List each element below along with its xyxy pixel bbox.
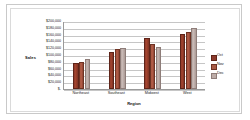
legend-item-nov[interactable]: Nov	[211, 62, 245, 71]
bar-southeast-oct[interactable]	[109, 52, 114, 89]
bar-group	[135, 22, 171, 89]
y-tick-label: $200,000	[46, 20, 61, 24]
y-tick-label: $160,000	[46, 34, 61, 38]
bar-group	[100, 22, 136, 89]
chart-frame: Sales $-$20,000$40,000$60,000$80,000$100…	[6, 4, 242, 114]
x-axis-title: Region	[63, 101, 205, 106]
bar-southeast-nov[interactable]	[115, 49, 120, 89]
legend-item-dec[interactable]: Dec	[211, 71, 245, 80]
y-tick-label: $40,000	[48, 74, 61, 78]
bar-northeast-nov[interactable]	[79, 62, 84, 89]
bar-group	[171, 22, 207, 89]
y-tick-label: $20,000	[48, 81, 61, 85]
chart-legend: OctNovDec	[211, 53, 245, 80]
bar-group	[64, 22, 100, 89]
plot-area	[63, 22, 205, 90]
bar-northeast-oct[interactable]	[73, 63, 78, 89]
legend-label: Dec	[217, 72, 224, 76]
x-tick-label: Northeast	[63, 92, 99, 96]
y-tick-label: $60,000	[48, 68, 61, 72]
bar-midwest-dec[interactable]	[156, 47, 161, 90]
legend-swatch-icon	[211, 73, 217, 79]
bar-southeast-dec[interactable]	[120, 48, 125, 89]
y-tick-label: $140,000	[46, 40, 61, 44]
legend-swatch-icon	[211, 55, 217, 61]
legend-label: Oct	[217, 54, 223, 58]
y-tick-label: $180,000	[46, 27, 61, 31]
legend-item-oct[interactable]: Oct	[211, 53, 245, 62]
x-tick-label: West	[170, 92, 206, 96]
bar-west-nov[interactable]	[186, 32, 191, 89]
y-axis-tick-labels: $-$20,000$40,000$60,000$80,000$100,000$1…	[25, 18, 61, 96]
chart-inner-border: Sales $-$20,000$40,000$60,000$80,000$100…	[10, 8, 240, 112]
y-tick-label: $80,000	[48, 61, 61, 65]
legend-swatch-icon	[211, 64, 217, 70]
x-tick-label: Midwest	[134, 92, 170, 96]
x-tick-label: Southeast	[99, 92, 135, 96]
bar-west-dec[interactable]	[191, 28, 196, 89]
y-tick-label: $-	[58, 88, 61, 92]
bar-midwest-oct[interactable]	[144, 38, 149, 89]
legend-label: Nov	[217, 63, 224, 67]
bar-northeast-dec[interactable]	[85, 59, 90, 89]
bar-midwest-nov[interactable]	[150, 44, 155, 89]
bar-west-oct[interactable]	[180, 34, 185, 89]
y-tick-label: $100,000	[46, 54, 61, 58]
y-tick-label: $120,000	[46, 47, 61, 51]
x-axis-tick-labels: NortheastSoutheastMidwestWest	[63, 92, 205, 100]
